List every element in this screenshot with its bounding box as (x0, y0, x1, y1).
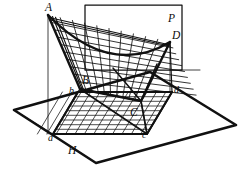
label-p: P (168, 13, 175, 25)
label-h: H (68, 145, 76, 157)
label-c-upper: C (130, 107, 138, 119)
label-c-lower: c (142, 130, 146, 140)
geometry-figure (0, 0, 248, 174)
label-a-lower: a (48, 133, 53, 143)
label-b-lower: b (69, 86, 74, 96)
label-d-lower: d (174, 85, 179, 95)
label-b-upper: B (82, 75, 89, 87)
label-a-upper: A (45, 2, 52, 14)
diagram-canvas: A P D B b d C c a H (0, 0, 248, 174)
label-d-upper: D (172, 30, 180, 42)
